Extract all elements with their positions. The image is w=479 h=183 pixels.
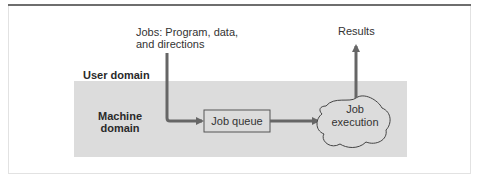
job-execution-label: Job execution xyxy=(322,103,388,129)
job-execution-label-line2: execution xyxy=(322,116,388,129)
diagram-graphics xyxy=(0,0,479,183)
jobs-input-arrow xyxy=(167,53,202,121)
job-execution-label-line1: Job xyxy=(322,103,388,116)
job-queue-label: Job queue xyxy=(204,110,270,132)
